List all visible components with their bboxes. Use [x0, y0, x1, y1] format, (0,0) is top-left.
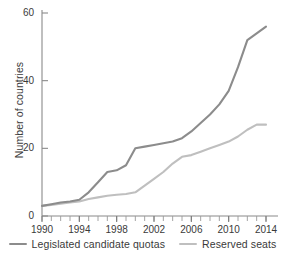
data-series-group: [42, 27, 266, 206]
line-chart: Number of countries 0204060 199019941998…: [0, 0, 285, 257]
y-tick-label: 60: [12, 7, 34, 18]
x-tick-label: 2014: [249, 224, 283, 235]
chart-legend: Legislated candidate quotas Reserved sea…: [0, 238, 285, 250]
legend-line-swatch-icon: [9, 243, 27, 245]
y-axis-label: Number of countries: [13, 40, 25, 180]
legend-item-label: Reserved seats: [202, 238, 276, 250]
x-tick-label: 2002: [137, 224, 171, 235]
x-tick-label: 2006: [174, 224, 208, 235]
legend-item-label: Legislated candidate quotas: [32, 238, 165, 250]
x-axis-major-ticks: [42, 216, 266, 222]
legend-line-swatch-icon: [179, 243, 197, 245]
x-tick-label: 1998: [100, 224, 134, 235]
y-tick-label: 20: [12, 142, 34, 153]
x-tick-label: 1990: [25, 224, 59, 235]
x-tick-label: 2010: [212, 224, 246, 235]
axes-group: [42, 10, 278, 216]
legend-item-legislated-candidate-quotas: Legislated candidate quotas: [9, 238, 165, 250]
x-tick-label: 1994: [62, 224, 96, 235]
series-line-reserved-seats: [42, 125, 266, 206]
legend-item-reserved-seats: Reserved seats: [179, 238, 276, 250]
y-axis-ticks: [42, 13, 48, 216]
y-tick-label: 0: [12, 210, 34, 221]
y-tick-label: 40: [12, 75, 34, 86]
chart-plot-area: [0, 0, 285, 257]
